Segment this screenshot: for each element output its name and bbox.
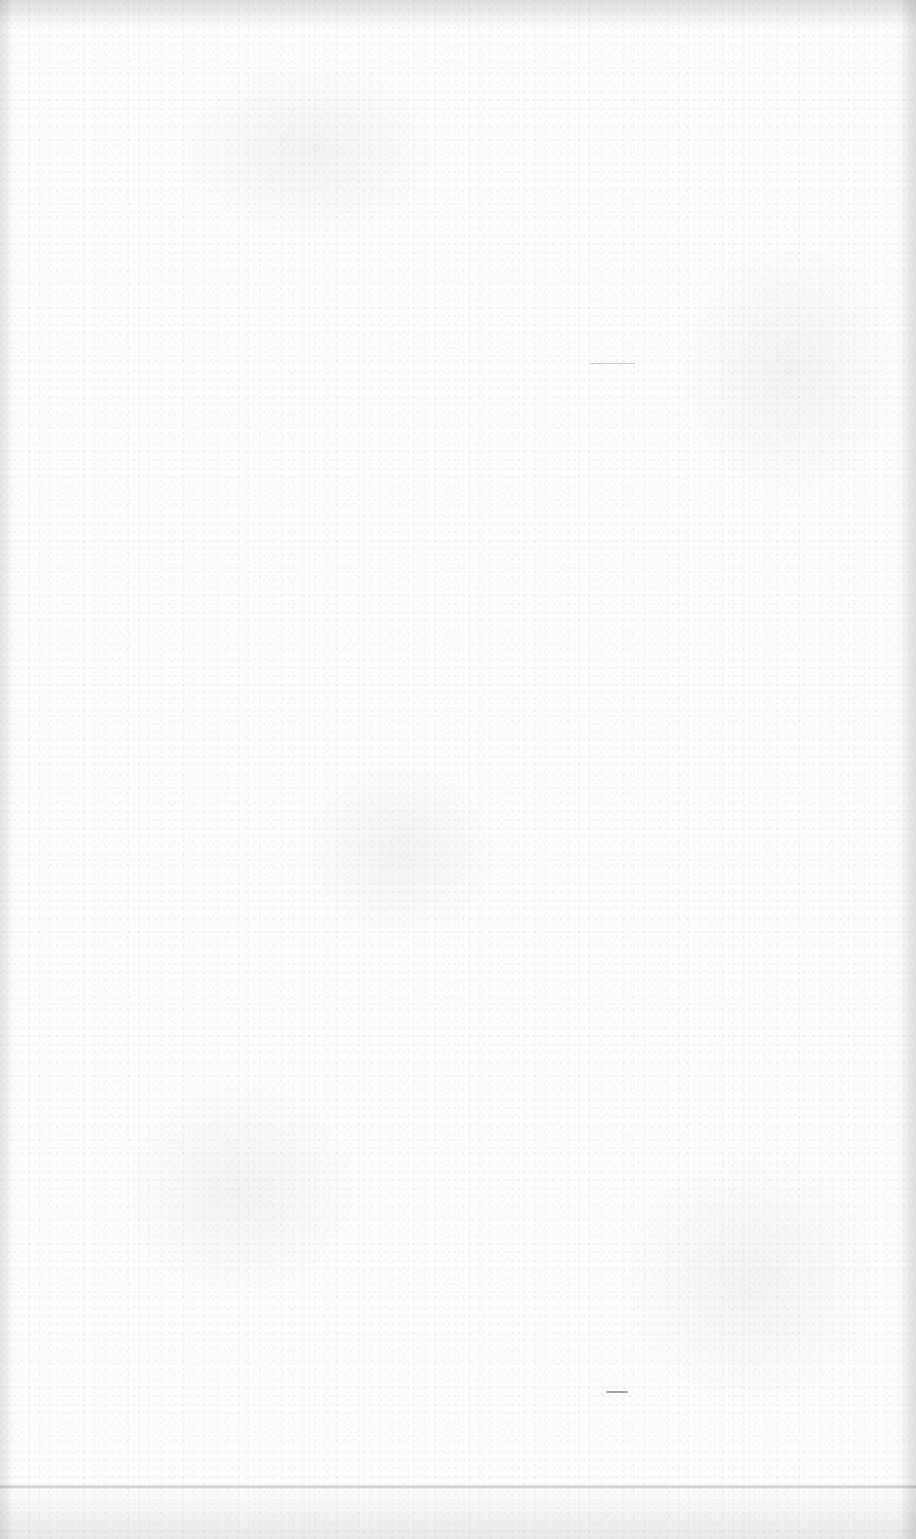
scan-edge-top xyxy=(0,0,916,28)
scan-noise-blotch xyxy=(680,240,900,500)
scan-noise-blotch xyxy=(120,1080,360,1300)
scan-edge-left xyxy=(0,0,14,1539)
scan-streak xyxy=(590,363,635,364)
stray-dash-mark xyxy=(606,1391,628,1393)
scan-noise-blotch xyxy=(620,1150,880,1410)
scan-noise-blotch xyxy=(300,760,500,940)
scan-edge-right xyxy=(898,0,916,1539)
scan-edge-bottom xyxy=(0,1489,916,1539)
blank-scanned-page xyxy=(0,0,916,1539)
paper-fold-line xyxy=(0,1485,916,1489)
scan-noise-blotch xyxy=(180,60,440,240)
